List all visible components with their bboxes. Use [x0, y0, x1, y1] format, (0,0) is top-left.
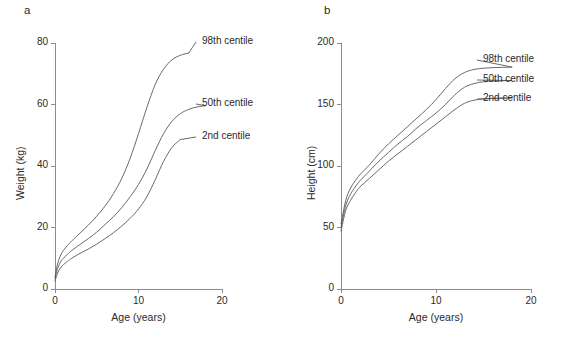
centile-curve [55, 53, 189, 277]
series-label-leader-line [189, 42, 196, 53]
y-tick-label: 0 [15, 282, 48, 293]
y-tick-label: 150 [301, 98, 334, 109]
y-tick-label: 20 [15, 221, 48, 232]
series-label-98th-centile: 98th centile [483, 53, 534, 64]
panel-a-weight-chart: a Age (years) Weight (kg) 02040608001020… [0, 0, 292, 339]
centile-curve [341, 67, 512, 224]
centile-curve [55, 140, 180, 282]
y-tick-label: 80 [15, 36, 48, 47]
y-tick-label: 50 [301, 221, 334, 232]
growth-charts-figure: a Age (years) Weight (kg) 02040608001020… [0, 0, 583, 339]
y-tick-label: 0 [301, 282, 334, 293]
series-label-2nd-centile: 2nd centile [483, 92, 531, 103]
panel-a-x-axis-title: Age (years) [55, 311, 222, 323]
x-tick-label: 20 [207, 295, 237, 306]
x-tick-label: 20 [516, 295, 546, 306]
panel-b-y-axis-title: Height (cm) [305, 146, 317, 200]
y-tick-label: 60 [15, 98, 48, 109]
series-label-2nd-centile: 2nd centile [202, 130, 250, 141]
panel-b-plot-area [291, 0, 583, 339]
y-tick-label: 40 [15, 159, 48, 170]
series-label-98th-centile: 98th centile [202, 35, 253, 46]
panel-b-x-axis-title: Age (years) [341, 311, 531, 323]
series-label-50th-centile: 50th centile [202, 97, 253, 108]
centile-curve [341, 98, 512, 231]
x-tick-label: 0 [40, 295, 70, 306]
centile-curve [55, 106, 205, 279]
x-tick-label: 10 [124, 295, 154, 306]
y-tick-label: 200 [301, 36, 334, 47]
panel-a-y-axis-title: Weight (kg) [14, 147, 26, 201]
series-label-leader-line [180, 137, 196, 140]
x-tick-label: 10 [421, 295, 451, 306]
panel-b-height-chart: b Age (years) Height (cm) 05010015020001… [291, 0, 583, 339]
x-tick-label: 0 [326, 295, 356, 306]
y-tick-label: 100 [301, 159, 334, 170]
series-label-50th-centile: 50th centile [483, 73, 534, 84]
